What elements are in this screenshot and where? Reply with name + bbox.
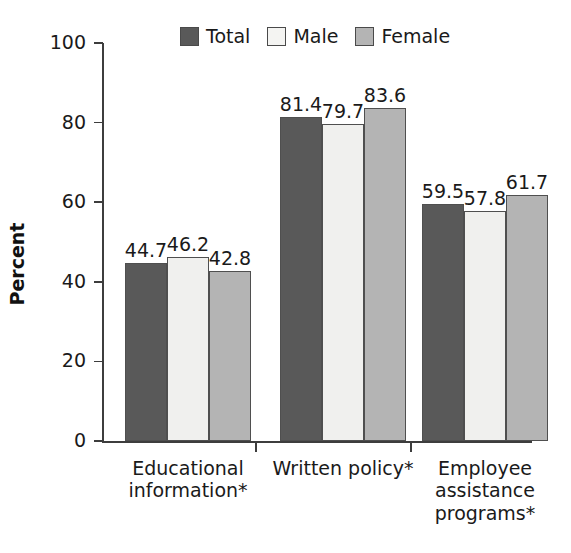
legend-swatch-total: [180, 27, 199, 46]
y-tick-0: [94, 440, 103, 442]
y-tick-label-100: 100: [0, 33, 86, 52]
bar-total-group3[interactable]: [422, 204, 464, 441]
bar-female-group2[interactable]: [364, 108, 406, 441]
y-tick-label-0: 0: [0, 431, 86, 450]
bar-male-group2[interactable]: [322, 124, 364, 441]
legend-label-female: Female: [381, 27, 450, 46]
y-axis-line: [102, 43, 104, 442]
bar-female-group3[interactable]: [506, 195, 548, 441]
legend-label-male: Male: [293, 27, 338, 46]
y-tick-label-40: 40: [0, 272, 86, 291]
bar-total-group2[interactable]: [280, 117, 322, 441]
y-tick-100: [94, 42, 103, 44]
y-tick-label-20: 20: [0, 351, 86, 370]
y-tick-80: [94, 122, 103, 124]
bar-chart: Total Male Female Percent 100806040200 4…: [0, 0, 571, 553]
x-group-separator-1: [255, 442, 257, 452]
legend-swatch-female: [355, 27, 374, 46]
bar-value-female-group2: 83.6: [355, 86, 415, 105]
y-tick-40: [94, 281, 103, 283]
x-group-separator-2: [410, 442, 412, 452]
legend-item-female[interactable]: Female: [355, 27, 450, 46]
legend-item-male[interactable]: Male: [267, 27, 338, 46]
legend-item-total[interactable]: Total: [180, 27, 250, 46]
y-tick-60: [94, 201, 103, 203]
bar-male-group3[interactable]: [464, 211, 506, 441]
y-tick-label-80: 80: [0, 113, 86, 132]
bar-value-female-group1: 42.8: [200, 249, 260, 268]
y-axis-title: Percent: [6, 216, 28, 312]
chart-legend: Total Male Female: [180, 27, 450, 46]
bar-female-group1[interactable]: [209, 271, 251, 441]
y-tick-label-60: 60: [0, 192, 86, 211]
category-label-3: Employee assistance programs*: [390, 457, 571, 524]
bar-male-group1[interactable]: [167, 257, 209, 441]
chart-title-cropped: [0, 0, 571, 10]
y-tick-20: [94, 361, 103, 363]
legend-swatch-male: [267, 27, 286, 46]
bar-total-group1[interactable]: [125, 263, 167, 441]
x-axis-line: [102, 441, 532, 443]
legend-label-total: Total: [206, 27, 250, 46]
bar-value-female-group3: 61.7: [497, 173, 557, 192]
